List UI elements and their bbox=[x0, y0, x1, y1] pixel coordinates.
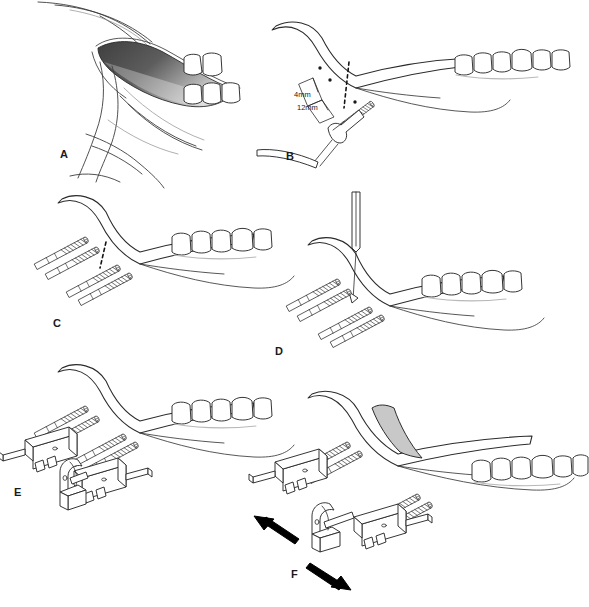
panel-b-entry-dot bbox=[318, 66, 321, 69]
panel-c-pin bbox=[45, 246, 100, 279]
panel-f-arrow-upper-left bbox=[254, 516, 299, 544]
panel-d-pin bbox=[286, 278, 341, 311]
panel-d-pin bbox=[297, 288, 352, 321]
surgical-sequence-figure: A 4mm 12mm bbox=[0, 0, 589, 607]
panel-c-teeth bbox=[172, 228, 272, 258]
panel-b-entry-dot bbox=[353, 100, 356, 103]
panel-c-letter: C bbox=[53, 317, 61, 329]
panel-a-upper-teeth bbox=[184, 53, 222, 76]
panel-e: E bbox=[0, 365, 294, 510]
panel-b: 4mm 12mm B bbox=[257, 22, 570, 168]
panel-e-teeth bbox=[172, 397, 272, 427]
panel-c-pin bbox=[34, 236, 89, 269]
panel-a-lower-teeth bbox=[184, 83, 240, 104]
panel-a-letter: A bbox=[60, 148, 68, 160]
panel-d: D bbox=[275, 192, 544, 357]
panel-f-distractor-clamp-proximal bbox=[249, 449, 327, 494]
panel-a: A bbox=[38, 2, 240, 188]
panel-b-drill-handpiece bbox=[257, 110, 364, 168]
panel-f-connecting-rod bbox=[324, 512, 354, 528]
panel-d-teeth bbox=[422, 270, 522, 300]
panel-e-letter: E bbox=[14, 486, 21, 498]
panel-b-label-4mm: 4mm bbox=[294, 90, 311, 99]
panel-c: C bbox=[34, 196, 294, 329]
panel-b-teeth bbox=[455, 49, 570, 78]
panel-b-letter: B bbox=[286, 150, 294, 162]
panel-f-letter: F bbox=[291, 568, 298, 580]
panel-f: F bbox=[249, 391, 588, 590]
panel-f-arrow-lower-right bbox=[306, 563, 351, 590]
panel-b-label-12mm: 12mm bbox=[297, 103, 318, 112]
panel-d-letter: D bbox=[275, 345, 283, 357]
panel-c-osteotomy-line bbox=[100, 242, 106, 268]
panel-b-entry-dot bbox=[328, 78, 331, 81]
